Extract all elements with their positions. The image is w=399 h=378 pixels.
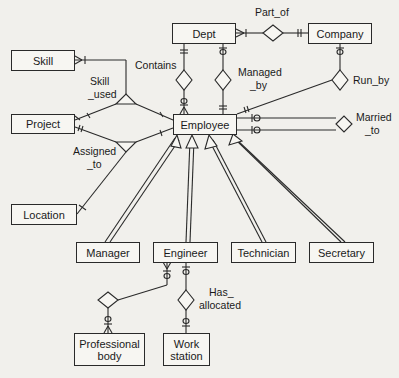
label-assigned-to-1: Assigned (73, 145, 116, 157)
entity-manager-label: Manager (86, 247, 129, 259)
entity-engineer-label: Engineer (163, 247, 207, 259)
entity-project-label: Project (26, 118, 60, 130)
entity-work-station-label: Work station (164, 338, 209, 362)
label-part-of: Part_of (255, 6, 289, 18)
label-contains: Contains (135, 59, 176, 71)
entity-engineer[interactable]: Engineer (153, 242, 218, 263)
entity-dept-label: Dept (192, 28, 215, 40)
entity-professional-body-label: Professional body (79, 338, 140, 362)
has-allocated-relationship (178, 262, 194, 333)
label-married-to-1: Married (356, 111, 392, 123)
label-skill-used-2: _used (88, 88, 117, 100)
managed-by-relationship (215, 43, 231, 114)
entity-technician-label: Technician (238, 247, 290, 259)
entity-skill[interactable]: Skill (11, 50, 75, 71)
contains-relationship (176, 43, 192, 114)
label-managed-by-2: _by (250, 79, 267, 91)
entity-skill-label: Skill (33, 55, 53, 67)
label-married-to-2: _to (365, 124, 380, 136)
entity-secretary[interactable]: Secretary (309, 242, 374, 263)
label-has-allocated-1: Has_ (209, 286, 234, 298)
entity-secretary-label: Secretary (318, 247, 365, 259)
label-has-allocated-2: allocated (199, 299, 241, 311)
entity-location-label: Location (23, 209, 65, 221)
entity-project[interactable]: Project (11, 114, 75, 134)
entity-company-label: Company (316, 28, 363, 40)
label-assigned-to-2: _to (87, 158, 102, 170)
entity-dept[interactable]: Dept (172, 23, 236, 44)
label-skill-used-1: Skill (90, 75, 109, 87)
entity-professional-body[interactable]: Professional body (74, 333, 145, 366)
entity-manager[interactable]: Manager (76, 242, 140, 263)
label-run-by: Run_by (353, 74, 389, 86)
label-managed-by-1: Managed (238, 66, 282, 78)
entity-employee-label: Employee (181, 119, 230, 131)
isa-links (105, 134, 345, 242)
entity-location[interactable]: Location (11, 204, 77, 225)
entity-employee[interactable]: Employee (173, 114, 237, 135)
part-of-relationship (236, 25, 308, 41)
entity-work-station[interactable]: Work station (163, 333, 210, 366)
entity-technician[interactable]: Technician (231, 242, 296, 263)
entity-company[interactable]: Company (308, 23, 372, 44)
engineer-professional-body-relationship (98, 262, 171, 333)
married-to-relationship (237, 114, 352, 134)
